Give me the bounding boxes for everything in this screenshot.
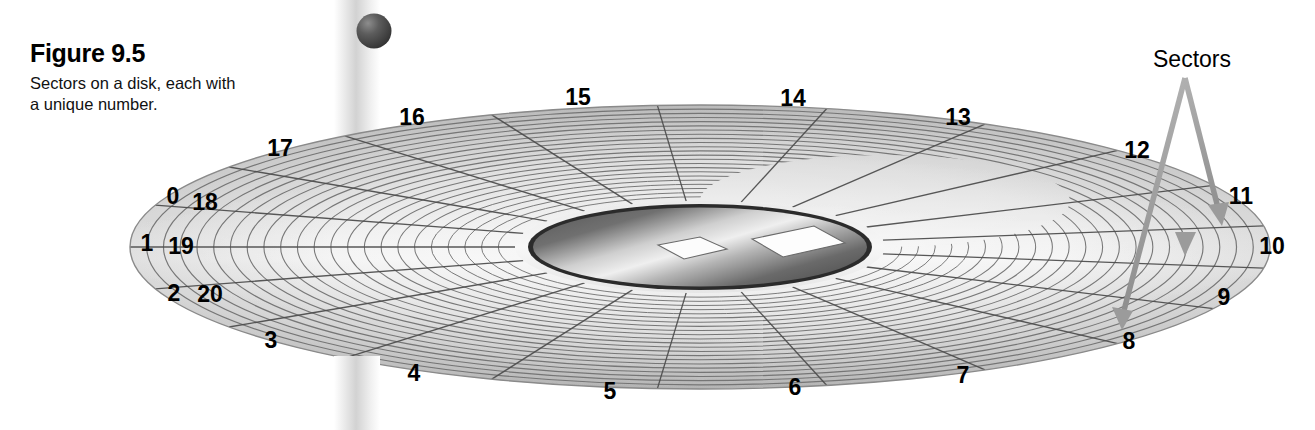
sector-number-10: 10 [1259, 233, 1285, 260]
sector-number-8: 8 [1123, 328, 1136, 355]
sector-number-11: 11 [1229, 183, 1253, 210]
sector-number-14: 14 [780, 85, 806, 112]
sector-number-6: 6 [789, 374, 802, 401]
sector-number-4: 4 [408, 360, 421, 387]
sector-number-2: 2 [168, 280, 181, 307]
figure-title: Figure 9.5 [30, 40, 310, 68]
figure-caption: Figure 9.5 Sectors on a disk, each with … [30, 40, 310, 116]
arrow-shaft-sector-8 [1122, 78, 1185, 318]
sector-number-9: 9 [1218, 284, 1231, 311]
arrow-head-sector-11 [1208, 202, 1229, 226]
figure-subtitle: Sectors on a disk, each with a unique nu… [30, 73, 245, 117]
sector-number-19: 19 [168, 233, 194, 260]
sector-number-15: 15 [565, 84, 591, 111]
sectors-annotation-label: Sectors [1153, 46, 1231, 73]
sector-number-20: 20 [197, 281, 223, 308]
sector-number-17: 17 [267, 135, 293, 162]
arrow-head-sector-center [1175, 232, 1196, 256]
sector-number-18: 18 [192, 189, 218, 216]
sector-number-3: 3 [265, 327, 278, 354]
sector-number-1: 1 [141, 230, 154, 257]
arrow-shaft-sector-11 [1185, 78, 1219, 212]
sector-number-5: 5 [604, 378, 617, 405]
sector-number-12: 12 [1124, 137, 1150, 164]
sector-number-7: 7 [957, 362, 970, 389]
sector-number-16: 16 [399, 104, 425, 131]
sector-number-0: 0 [167, 183, 180, 210]
sector-number-13: 13 [945, 104, 971, 131]
figure-stage: Figure 9.5 Sectors on a disk, each with … [0, 0, 1315, 430]
